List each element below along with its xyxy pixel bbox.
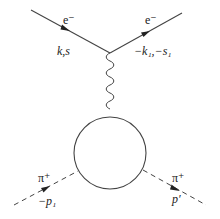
photon-propagator [106, 53, 114, 109]
arrow-icon [141, 31, 150, 37]
label-outgoing-electron: e⁻ [145, 13, 157, 27]
feynman-diagram: e⁻ k,s e⁻ −k₁,−s₁ π⁺ −p₁ π⁺ p′ [0, 0, 220, 219]
label-incoming-electron: e⁻ [63, 13, 75, 27]
label-incoming-pion-momentum: −p₁ [38, 194, 56, 208]
label-incoming-pion: π⁺ [38, 171, 50, 185]
arrow-icon [41, 186, 50, 193]
interaction-blob [74, 117, 146, 189]
label-outgoing-electron-momentum: −k₁,−s₁ [134, 44, 172, 58]
label-incoming-electron-momentum: k,s [57, 44, 70, 58]
arrow-icon [170, 185, 180, 192]
label-outgoing-pion-momentum: p′ [171, 192, 181, 206]
label-outgoing-pion: π⁺ [172, 171, 184, 185]
